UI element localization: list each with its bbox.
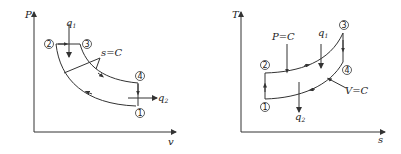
pv-process-1-2 xyxy=(56,44,136,106)
ts-isochore-label: V=C xyxy=(345,85,369,96)
ts-point-1: 1 xyxy=(261,103,270,113)
diagram-canvas: P v q1 q2 s=C 2 3 4 xyxy=(0,0,401,154)
svg-text:3: 3 xyxy=(84,40,89,49)
ts-point-2: 2 xyxy=(261,61,270,71)
pv-isentrope-label: s=C xyxy=(101,47,123,58)
pv-diagram: P v q1 q2 s=C 2 3 4 xyxy=(24,9,176,147)
svg-text:1: 1 xyxy=(137,109,142,118)
pv-point-4: 4 xyxy=(136,72,145,82)
ts-heat-out-label: q2 xyxy=(295,111,305,123)
svg-text:2: 2 xyxy=(46,40,51,49)
svg-text:4: 4 xyxy=(137,72,142,81)
svg-text:4: 4 xyxy=(344,66,349,75)
ts-point-4: 4 xyxy=(343,66,352,76)
pv-x-axis-label: v xyxy=(168,136,174,147)
ts-diagram: T s P=C q1 q2 V=C 3 2 xyxy=(232,9,385,145)
pv-point-3: 3 xyxy=(83,40,92,50)
pv-isentrope-pointer xyxy=(64,58,100,73)
pv-heat-in-label: q1 xyxy=(66,17,76,29)
ts-isochore-pointer xyxy=(329,79,346,88)
pv-point-2: 2 xyxy=(45,40,54,50)
svg-text:1: 1 xyxy=(262,103,267,112)
svg-text:2: 2 xyxy=(262,61,267,70)
ts-x-axis-label: s xyxy=(378,134,383,145)
ts-y-axis-label: T xyxy=(232,9,240,20)
ts-isobar-label: P=C xyxy=(271,31,295,42)
pv-heat-out-label: q2 xyxy=(158,92,168,104)
pv-y-axis-label: P xyxy=(24,9,32,20)
pv-point-1: 1 xyxy=(136,109,145,119)
svg-text:3: 3 xyxy=(341,21,346,30)
ts-heat-in-label: q1 xyxy=(318,27,328,39)
ts-point-3: 3 xyxy=(340,21,349,31)
